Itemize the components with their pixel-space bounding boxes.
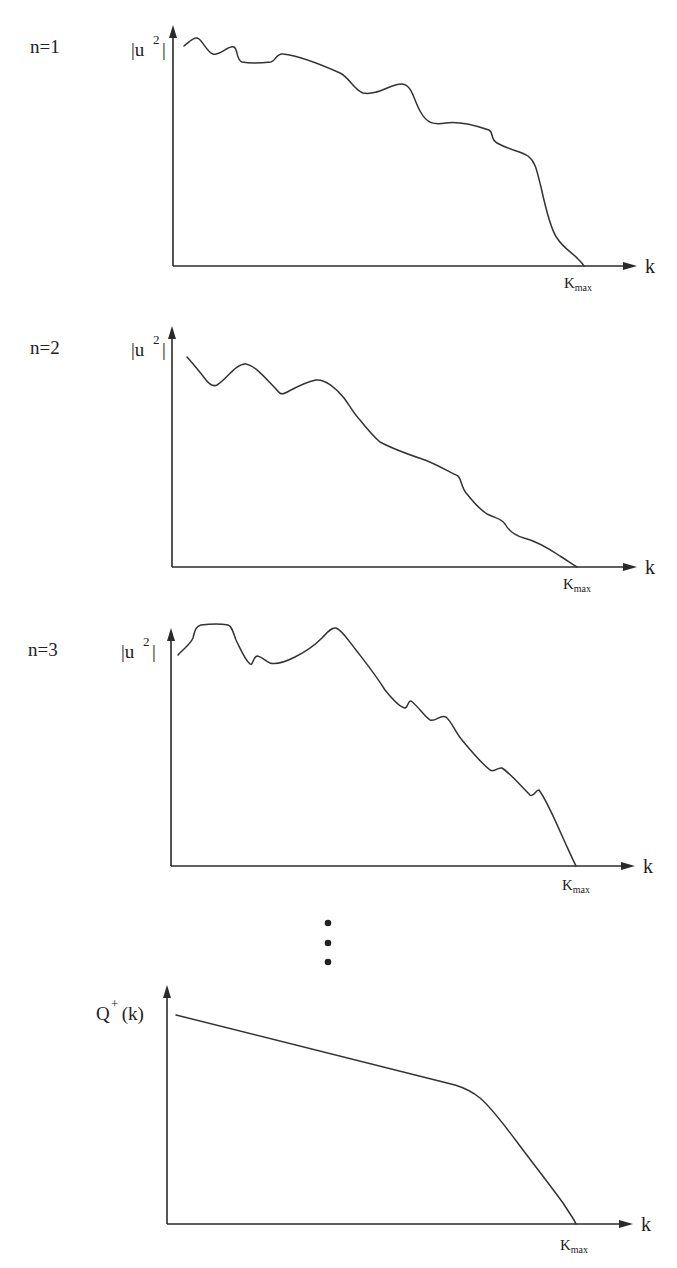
y-axis-arrow-icon [169,25,177,38]
x-axis-label: k [645,556,655,578]
y-axis-label-base: |u [131,39,145,60]
y-axis-label-end: | [162,39,166,60]
x-axis-arrow-icon [619,1220,633,1228]
kmax-label: Kmax [560,1237,588,1255]
y-axis-label-base: Q [96,1003,110,1024]
envelope-curve [176,1015,576,1224]
x-axis-arrow-icon [623,563,637,571]
x-axis-arrow-icon [621,862,635,870]
kmax-label: Kmax [563,576,591,594]
kmax-label: Kmax [562,877,590,895]
y-axis-label-end: | [152,641,156,662]
dot [325,959,332,966]
y-axis-label-base: |u [131,339,145,360]
panel-n3: n=3 |u 2 | k Kmax [28,624,653,895]
y-axis-label-end: (k) [117,1003,144,1025]
x-axis-label: k [643,855,653,877]
dot [325,940,332,947]
y-axis-arrow-icon [163,985,171,998]
y-axis-label-base: |u [121,641,135,662]
x-axis-label: k [645,255,655,277]
spectrum-curve [187,357,577,567]
y-axis-arrow-icon [167,628,175,641]
panel-label: n=1 [30,36,60,57]
figure-canvas: n=1 |u 2 | k Kmax n=2 |u 2 | k Kmax n=3 … [0,0,677,1268]
y-axis-label-end: | [162,339,166,360]
y-axis-label-sup: 2 [153,32,160,47]
x-axis-label: k [641,1213,651,1235]
panel-n1: n=1 |u 2 | k Kmax [30,25,655,293]
kmax-label: Kmax [564,275,592,293]
spectrum-curve [178,624,576,866]
y-axis-label-sup: 2 [143,634,150,649]
y-axis-label-sup: 2 [153,332,160,347]
spectrum-curve [184,38,584,266]
x-axis-arrow-icon [623,262,637,270]
dot [325,920,332,927]
ellipsis-dots [325,920,332,966]
panel-label: n=3 [28,639,58,660]
panel-q-plus: Q + (k) k Kmax [96,985,651,1255]
panel-label: n=2 [30,337,60,358]
panel-n2: n=2 |u 2 | k Kmax [30,326,655,594]
y-axis-arrow-icon [168,326,176,339]
